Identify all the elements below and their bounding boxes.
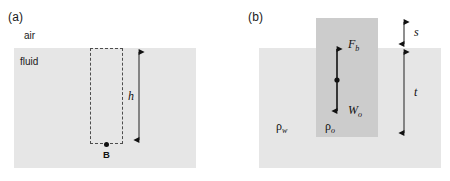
physics-figure: (a) air fluid B h (b) ρw ρo Fb Wo s t: [0, 0, 450, 181]
arrow-overlay: [0, 0, 450, 181]
force-origin-dot: [334, 77, 339, 82]
